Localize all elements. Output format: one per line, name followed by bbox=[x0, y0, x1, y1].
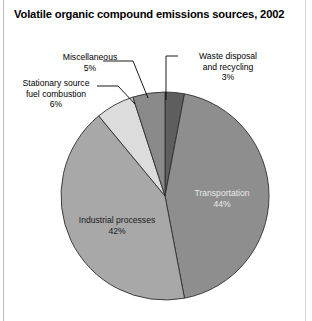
callout-label-stationary-source: Stationary source fuel combustion 6% bbox=[6, 78, 106, 110]
callout-label-waste-disposal: Waste disposal and recycling 3% bbox=[182, 51, 274, 83]
callout-label-miscellaneous: Miscellaneous 5% bbox=[47, 52, 133, 73]
slice-label-industrial-processes: Industrial processes 42% bbox=[62, 215, 172, 236]
slice-label-transportation: Transportation 44% bbox=[176, 188, 268, 209]
pie-chart bbox=[0, 0, 312, 321]
chart-figure: Volatile organic compound emissions sour… bbox=[0, 0, 312, 321]
